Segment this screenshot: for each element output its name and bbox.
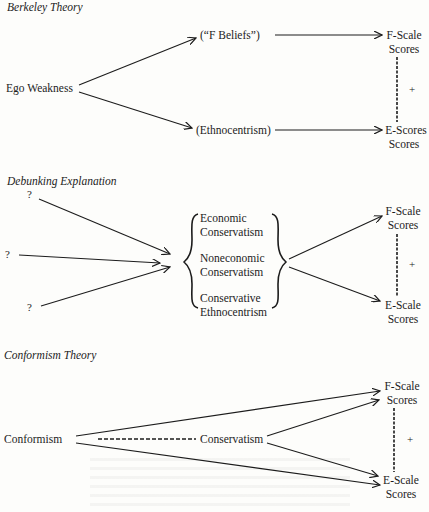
node-escale-2-line2: Scores [388, 313, 419, 326]
arrow-bracket-to-escale [289, 267, 380, 301]
bracket-item-noneconomic-2: Conservatism [200, 266, 263, 279]
arrow-q1 [39, 199, 170, 254]
node-fscale-2-line2: Scores [388, 219, 419, 232]
bracket-item-conservative-1: Conservative [200, 292, 261, 305]
node-f-beliefs: (“F Beliefs”) [200, 29, 260, 42]
unknown-cause-1: ? [27, 188, 32, 201]
node-escale-3-line1: E-Scale [383, 474, 419, 487]
panel-title-debunking: Debunking Explanation [7, 175, 117, 188]
node-escale-2-line1: E-Scale [385, 299, 421, 312]
bracket-item-economic-1: Economic [200, 212, 247, 225]
node-ethnocentrism: (Ethnocentrism) [196, 124, 271, 137]
panel-title-conformism: Conformism Theory [4, 349, 96, 362]
unknown-cause-2: ? [5, 248, 10, 261]
bracket-item-economic-2: Conservatism [200, 226, 263, 239]
node-fscale-1-line2: Scores [389, 43, 420, 56]
node-fscale-2-line1: F-Scale [385, 205, 420, 218]
arrow-conformism-to-fscale [76, 391, 380, 436]
unknown-cause-3: ? [27, 301, 32, 314]
correlation-sign-1: + [409, 83, 415, 96]
correlation-sign-2: + [409, 258, 415, 271]
bracket-item-conservative-2: Ethnocentrism [200, 306, 267, 319]
node-escores-line1: E-Scores [385, 124, 427, 137]
node-fscale-3-line1: F-Scale [384, 380, 419, 393]
arrow-q3 [41, 267, 170, 306]
right-brace [272, 214, 286, 308]
node-conformism: Conformism [4, 433, 62, 446]
node-escale-3-line2: Scores [386, 488, 417, 501]
scan-bleedthrough [90, 458, 350, 512]
left-brace [184, 214, 198, 308]
bracket-item-noneconomic-1: Noneconomic [200, 252, 265, 265]
arrow-ego-to-ethnocentrism [79, 92, 192, 128]
node-fscale-3-line2: Scores [387, 394, 418, 407]
node-ego-weakness: Ego Weakness [6, 82, 73, 95]
node-conservatism: Conservatism [200, 433, 263, 446]
node-fscale-1-line1: F-Scale [386, 29, 421, 42]
correlation-sign-3: + [407, 433, 413, 446]
arrow-bracket-to-fscale [289, 216, 382, 259]
arrow-ego-to-fbeliefs [79, 38, 196, 85]
arrow-q2 [19, 255, 160, 263]
diagram-page: Berkeley Theory Ego Weakness (“F Beliefs… [0, 0, 429, 512]
panel-title-berkeley: Berkeley Theory [7, 1, 83, 14]
node-escores-line2: Scores [389, 138, 420, 151]
